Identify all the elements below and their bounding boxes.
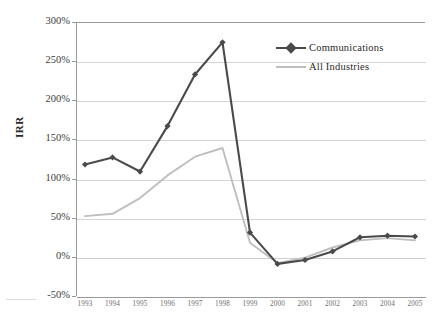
legend-item-all-industries[interactable]: All Industries	[276, 57, 384, 76]
irr-line-chart: IRR 300%250%200%150%100%50%0%-50% 199319…	[0, 0, 438, 324]
y-tick-label: 250%	[0, 54, 70, 65]
y-tick-label: 300%	[0, 15, 70, 26]
legend-swatch-all-industries	[276, 61, 306, 73]
gridline	[77, 258, 426, 259]
y-tick-label: 150%	[0, 132, 70, 143]
legend-swatch-communications	[276, 42, 306, 54]
legend-label-all-industries: All Industries	[309, 61, 369, 72]
x-tick-label: 2005	[398, 300, 432, 308]
gridline	[77, 180, 426, 181]
gridline	[77, 140, 426, 141]
gridline	[77, 101, 426, 102]
y-tick-label: 200%	[0, 93, 70, 104]
bottom-rule	[6, 299, 36, 300]
chart-legend: Communications All Industries	[276, 38, 384, 76]
legend-item-communications[interactable]: Communications	[276, 38, 384, 57]
y-tick-mark	[72, 296, 76, 297]
y-tick-label: 100%	[0, 172, 70, 183]
gridline	[77, 297, 426, 298]
y-tick-label: 0%	[0, 250, 70, 261]
gridline	[77, 219, 426, 220]
y-tick-label: 50%	[0, 211, 70, 222]
legend-label-communications: Communications	[309, 42, 384, 53]
